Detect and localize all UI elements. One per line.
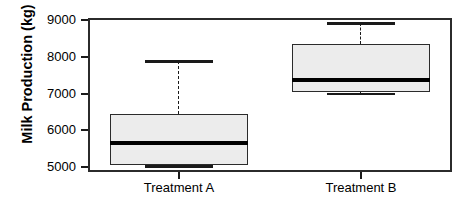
median-line bbox=[110, 141, 248, 145]
y-axis-tick-labels: 5000 6000 7000 8000 9000 bbox=[30, 0, 76, 204]
whisker-cap-lower bbox=[327, 93, 395, 95]
y-tick-mark bbox=[81, 93, 88, 95]
y-tick-label: 5000 bbox=[47, 160, 76, 173]
whisker-upper bbox=[178, 61, 179, 114]
box bbox=[292, 44, 430, 91]
whisker-cap-upper bbox=[327, 22, 395, 24]
median-line bbox=[292, 78, 430, 82]
x-tick-label: Treatment B bbox=[281, 180, 441, 195]
y-tick-label: 6000 bbox=[47, 123, 76, 136]
box bbox=[110, 114, 248, 164]
y-tick-label: 7000 bbox=[47, 87, 76, 100]
y-tick-mark bbox=[81, 166, 88, 168]
plot-area bbox=[88, 18, 452, 172]
whisker-cap-upper bbox=[145, 60, 213, 62]
x-tick-label: Treatment A bbox=[99, 180, 259, 195]
y-tick-mark bbox=[81, 129, 88, 131]
whisker-upper bbox=[360, 23, 361, 44]
boxplot-figure: Milk Production (kg) 5000 6000 7000 8000… bbox=[0, 0, 474, 204]
whisker-cap-lower bbox=[145, 165, 213, 167]
x-tick-mark bbox=[178, 172, 180, 179]
x-tick-mark bbox=[360, 172, 362, 179]
y-tick-mark bbox=[81, 19, 88, 21]
y-tick-label: 9000 bbox=[47, 13, 76, 26]
y-tick-label: 8000 bbox=[47, 50, 76, 63]
y-tick-mark bbox=[81, 56, 88, 58]
